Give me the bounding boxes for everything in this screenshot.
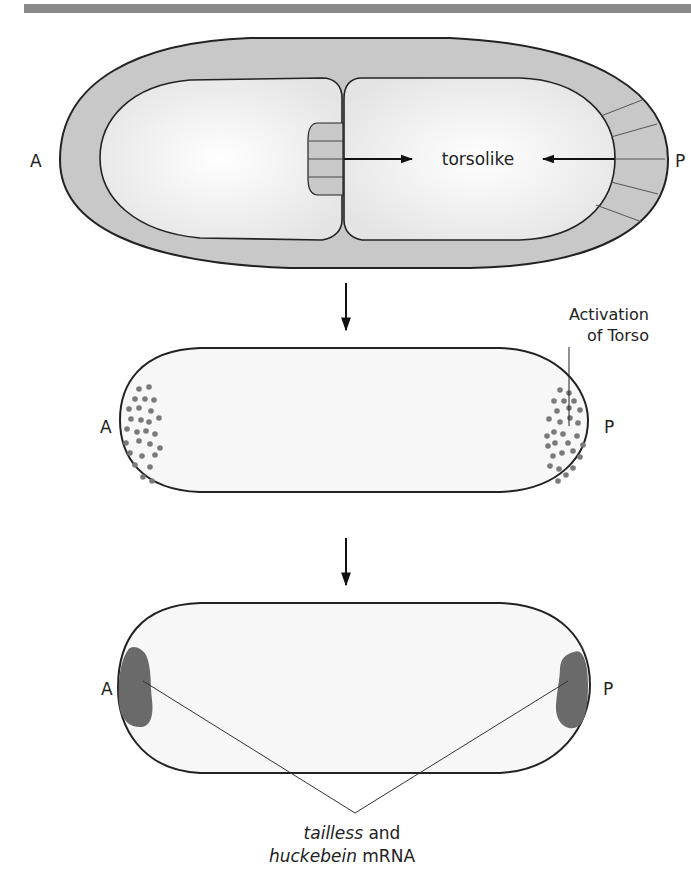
- caption-line2: huckebein mRNA: [269, 846, 415, 866]
- posterior-label: P: [603, 679, 613, 699]
- posterior-label: P: [675, 151, 685, 171]
- activation-label-line2: of Torso: [587, 326, 649, 345]
- posterior-label: P: [604, 417, 614, 437]
- anterior-label: A: [101, 679, 113, 699]
- panel-1-egg-chamber: torsolike A P: [30, 38, 685, 268]
- anterior-label: A: [30, 151, 42, 171]
- border-cells: [308, 123, 343, 195]
- torso-pathway-diagram: torsolike A P Activati: [0, 0, 691, 889]
- activation-label-line1: Activation: [569, 305, 649, 324]
- anterior-label: A: [100, 417, 112, 437]
- panel-2-embryo: Activation of Torso A P: [100, 305, 649, 492]
- panel-3-embryo: A P tailless and huckebein mRNA: [101, 603, 613, 866]
- nurse-cell-region: [100, 78, 342, 240]
- caption-line1: tailless and: [304, 823, 401, 843]
- embryo-outline: [120, 348, 588, 492]
- embryo-outline: [118, 603, 590, 773]
- torsolike-label: torsolike: [442, 149, 514, 169]
- anterior-expression-domain: [119, 647, 153, 727]
